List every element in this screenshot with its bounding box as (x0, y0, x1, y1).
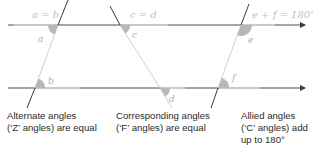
angle-c-arc (120, 25, 130, 33)
equation-c-equals-d: c = d (130, 9, 157, 20)
caption-corresponding-angles: Corresponding angles (‘F’ angles) are eq… (116, 110, 210, 134)
caption-alternate-line1: Alternate angles (7, 110, 97, 122)
transversal-allied (211, 4, 252, 108)
equation-e-plus-f: e + f = 180° (252, 9, 313, 20)
angle-label-a: a (38, 34, 43, 44)
caption-allied-line3: up to 180° (241, 134, 308, 146)
transversal-corresponding (110, 6, 172, 108)
angle-label-f: f (231, 73, 237, 83)
caption-allied-line1: Allied angles (241, 110, 308, 122)
angle-label-d: d (169, 94, 175, 104)
caption-alternate-angles: Alternate angles (‘Z’ angles) are equal (7, 110, 97, 134)
angle-label-b: b (48, 76, 54, 86)
angle-label-e: e (248, 35, 253, 45)
parallel-lines-diagram: a = b c = d e + f = 180° a b c d e f (0, 0, 313, 112)
caption-alternate-line2: (‘Z’ angles) are equal (7, 122, 97, 134)
caption-allied-line2: (‘C’ angles) add (241, 122, 308, 134)
caption-corresponding-line2: (‘F’ angles) are equal (116, 122, 210, 134)
caption-allied-angles: Allied angles (‘C’ angles) add up to 180… (241, 110, 308, 146)
caption-corresponding-line1: Corresponding angles (116, 110, 210, 122)
angle-label-c: c (132, 30, 137, 40)
equation-a-equals-b: a = b (32, 9, 59, 20)
